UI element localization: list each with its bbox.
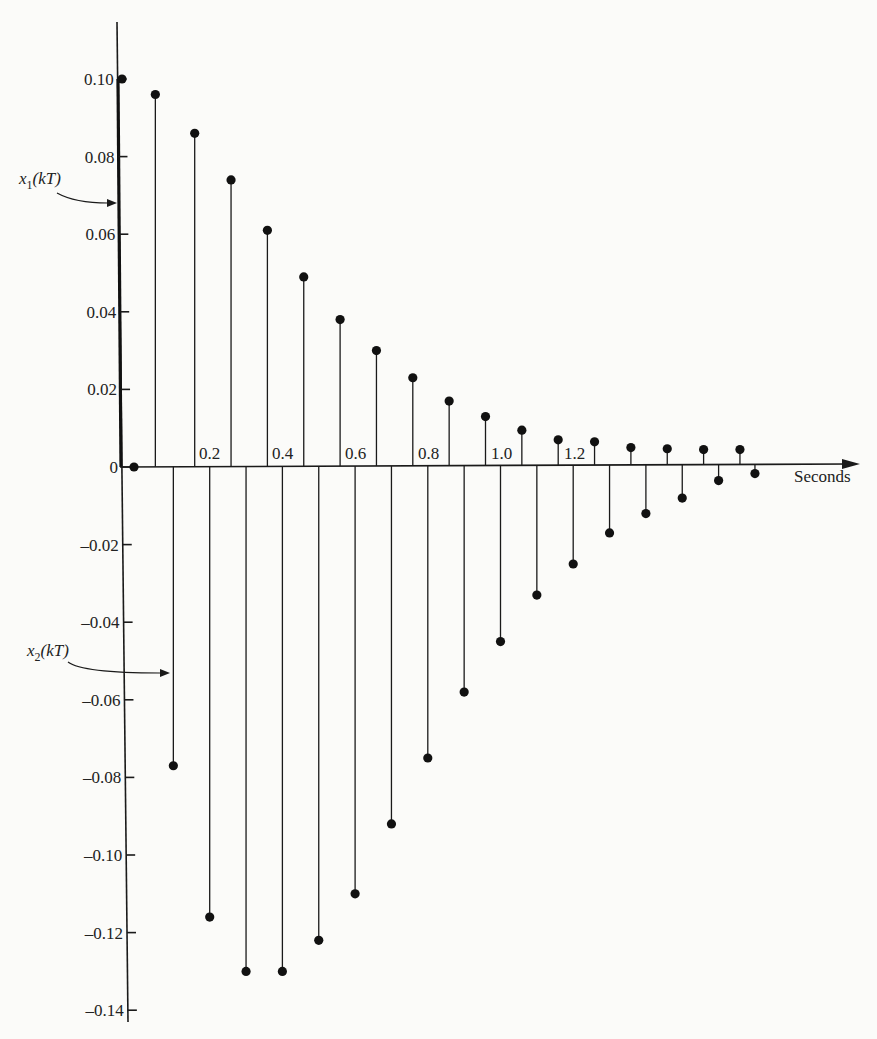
x1-point bbox=[408, 373, 417, 382]
y-tick-label: –0.08 bbox=[82, 768, 121, 787]
series-x2 bbox=[129, 462, 759, 976]
x1-point bbox=[226, 175, 235, 184]
y-axis: 0.100.080.060.040.020–0.02–0.04–0.06–0.0… bbox=[79, 22, 136, 1022]
x2-point bbox=[314, 936, 323, 945]
x1-annotation-arrowhead-icon bbox=[107, 199, 117, 207]
x1-point bbox=[590, 437, 599, 446]
x2-annotation-label: x2(kT) bbox=[26, 641, 69, 664]
x2-point bbox=[205, 912, 214, 921]
x2-point bbox=[714, 476, 723, 485]
x1-annotation-arrow bbox=[57, 193, 108, 203]
x2-point bbox=[750, 469, 759, 478]
x2-point bbox=[532, 590, 541, 599]
x-tick-label: 0.8 bbox=[418, 444, 439, 463]
x1-point bbox=[626, 443, 635, 452]
y-tick-label: –0.04 bbox=[80, 613, 120, 632]
x2-point bbox=[278, 967, 287, 976]
x2-point bbox=[241, 967, 250, 976]
x2-point bbox=[169, 761, 178, 770]
x-tick-label: 1.2 bbox=[564, 444, 585, 463]
x1-point bbox=[517, 426, 526, 435]
x1-point bbox=[554, 435, 563, 444]
x1-point bbox=[336, 315, 345, 324]
x-tick-label: 0.6 bbox=[345, 444, 366, 463]
y-tick-label: 0.06 bbox=[86, 225, 116, 244]
x2-point bbox=[460, 687, 469, 696]
annotations: x1(kT)x2(kT) bbox=[18, 169, 170, 677]
x1-point bbox=[699, 445, 708, 454]
x-tick-label: 1.0 bbox=[491, 444, 512, 463]
y-tick-label: –0.02 bbox=[79, 536, 118, 555]
y-tick-label: 0.02 bbox=[87, 380, 117, 399]
y-tick-label: –0.06 bbox=[81, 691, 120, 710]
x2-annotation-arrowhead-icon bbox=[160, 669, 170, 677]
x1-point bbox=[190, 129, 199, 138]
x1-point bbox=[151, 90, 160, 99]
x2-point bbox=[496, 637, 505, 646]
series-x1 bbox=[117, 74, 744, 466]
y-tick-label: 0 bbox=[109, 458, 118, 477]
x2-point bbox=[678, 493, 687, 502]
y-tick-label: –0.14 bbox=[85, 1001, 125, 1020]
stem-plot: 0.100.080.060.040.020–0.02–0.04–0.06–0.0… bbox=[0, 0, 877, 1039]
y-tick-label: 0.10 bbox=[84, 70, 114, 89]
x2-point bbox=[605, 528, 614, 537]
x1-point bbox=[663, 444, 672, 453]
x1-point bbox=[299, 272, 308, 281]
x1-point bbox=[117, 74, 126, 83]
x1-annotation-label: x1(kT) bbox=[18, 169, 61, 192]
x2-point bbox=[569, 559, 578, 568]
x2-point bbox=[423, 753, 432, 762]
x2-point bbox=[351, 889, 360, 898]
x2-point bbox=[129, 462, 138, 471]
x-tick-label: 0.4 bbox=[272, 444, 294, 463]
x1-point bbox=[481, 412, 490, 421]
x2-point bbox=[641, 509, 650, 518]
x1-point bbox=[735, 445, 744, 454]
y-tick-label: –0.10 bbox=[83, 846, 122, 865]
x1-point bbox=[263, 226, 272, 235]
x2-point bbox=[387, 819, 396, 828]
x1-point bbox=[372, 346, 381, 355]
x1-stem-k0 bbox=[118, 79, 121, 467]
x1-point bbox=[445, 396, 454, 405]
x2-annotation-arrow bbox=[68, 662, 160, 673]
y-tick-label: –0.12 bbox=[84, 924, 123, 943]
y-tick-label: 0.08 bbox=[85, 148, 115, 167]
x-tick-label: 0.2 bbox=[199, 444, 220, 463]
x-axis-title: Seconds bbox=[794, 467, 851, 486]
y-tick-label: 0.04 bbox=[86, 303, 116, 322]
